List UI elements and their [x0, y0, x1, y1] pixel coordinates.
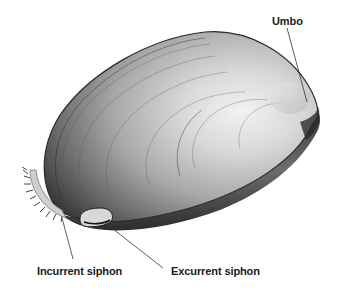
shell-body [44, 32, 317, 222]
leader-line-incurrent [62, 218, 73, 259]
clam-diagram: Umbo Incurrent siphon Excurrent siphon [0, 0, 339, 295]
label-excurrent-siphon: Excurrent siphon [171, 265, 260, 277]
label-incurrent-siphon: Incurrent siphon [37, 265, 122, 277]
umbo-region [270, 82, 310, 114]
label-umbo: Umbo [272, 15, 303, 27]
clam-illustration [0, 0, 339, 295]
